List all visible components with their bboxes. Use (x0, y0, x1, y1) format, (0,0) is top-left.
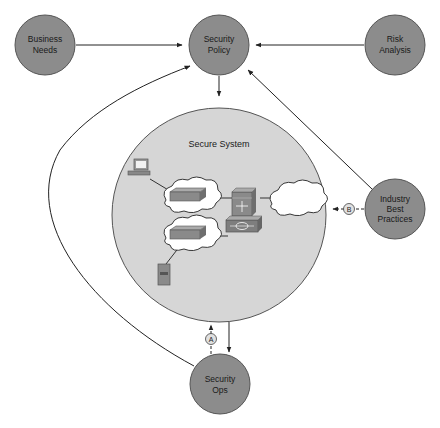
business-needs-line-2: Needs (33, 45, 58, 55)
industry-line-2: Best (386, 204, 404, 214)
business-needs-line-1: Business (28, 34, 63, 44)
risk-analysis-line-1: Risk (387, 34, 404, 44)
risk-analysis-line-2: Analysis (379, 45, 411, 55)
marker-b: B (344, 204, 355, 215)
security-ops-line-2: Ops (212, 385, 228, 395)
industry-best-practices-node: Industry Best Practices (365, 179, 425, 239)
industry-line-1: Industry (380, 194, 411, 204)
firewall-icon (232, 188, 256, 216)
risk-analysis-node: Risk Analysis (365, 15, 425, 75)
security-policy-line-2: Policy (208, 45, 231, 55)
security-ops-node: Security Ops (190, 354, 250, 414)
marker-b-label: B (347, 206, 352, 213)
security-policy-line-1: Security (204, 34, 235, 44)
server-icon (158, 264, 170, 285)
vpn-concentrator-icon (226, 216, 262, 232)
security-ops-line-1: Security (205, 374, 236, 384)
security-lifecycle-diagram: Secure System (0, 0, 440, 428)
secure-system-title: Secure System (188, 139, 249, 149)
secure-system-node: Secure System (112, 108, 328, 322)
marker-a: A (206, 334, 217, 345)
marker-a-label: A (209, 336, 214, 343)
security-policy-node: Security Policy (189, 15, 249, 75)
industry-line-3: Practices (378, 214, 413, 224)
business-needs-node: Business Needs (15, 15, 75, 75)
